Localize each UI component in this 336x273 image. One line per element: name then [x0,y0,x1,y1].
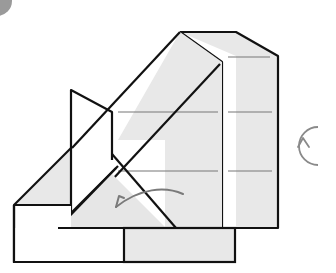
origami-diagram [0,0,336,273]
rotate-model-icon [298,127,318,165]
